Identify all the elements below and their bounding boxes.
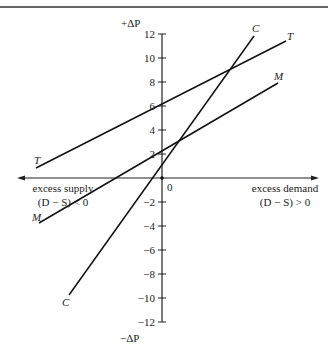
label-T-start: T <box>34 154 41 166</box>
tick-neg-4: −4 <box>143 220 155 232</box>
label-M-end: M <box>273 70 284 82</box>
tick-12: 12 <box>144 28 155 40</box>
y-axis-bottom-label: −ΔP <box>120 332 139 344</box>
tick-10: 10 <box>144 52 156 64</box>
excess-demand-condition: (D − S) > 0 <box>260 196 311 209</box>
tick-8: 8 <box>150 76 156 88</box>
tick-neg-10: −10 <box>138 292 156 304</box>
label-T-end: T <box>287 30 294 42</box>
tick-neg-12: −12 <box>138 316 155 328</box>
diagram-canvas: 12 10 8 6 4 2 −2 −4 −6 −8 −10 −12 +ΔP −Δ… <box>0 0 328 354</box>
x-axis <box>17 176 319 181</box>
arrow-right-icon <box>311 176 319 181</box>
label-C-end: C <box>252 22 260 34</box>
tick-neg-8: −8 <box>143 268 155 280</box>
label-C-start: C <box>62 296 70 308</box>
origin-label: 0 <box>167 181 173 193</box>
excess-demand-label: excess demand <box>252 182 319 194</box>
origin-point <box>160 176 164 180</box>
y-axis-top-label: +ΔP <box>121 17 140 29</box>
excess-supply-label: excess supply <box>33 182 94 194</box>
tick-neg-6: −6 <box>143 244 155 256</box>
tick-4: 4 <box>150 124 156 136</box>
tick-neg-2: −2 <box>143 196 155 208</box>
line-T <box>36 41 286 168</box>
label-M-start: M <box>31 211 42 223</box>
arrow-left-icon <box>17 176 25 181</box>
